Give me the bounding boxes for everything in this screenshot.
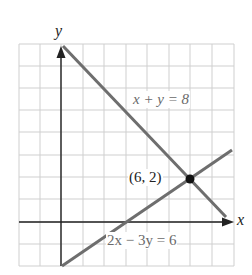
intersection-point: [186, 175, 195, 184]
line2-label: 2x − 3y = 6: [106, 232, 177, 249]
y-axis-label: y: [55, 22, 62, 40]
point-label: (6, 2): [128, 169, 163, 186]
x-axis-label: x: [237, 211, 244, 229]
x-axis-arrow: [222, 218, 234, 227]
line1-label: x + y = 8: [132, 91, 190, 108]
